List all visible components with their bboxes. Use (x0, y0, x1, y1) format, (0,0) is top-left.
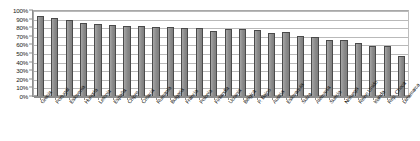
bar[interactable] (123, 26, 130, 96)
y-axis-tick-label: 50% (16, 50, 28, 57)
bar-slot (340, 10, 347, 96)
bar[interactable] (109, 25, 116, 96)
y-axis-tick-label: 80% (16, 24, 28, 31)
y-axis-tick-label: 20% (16, 75, 28, 82)
bar-slot (94, 10, 101, 96)
y-axis-tick-label: 90% (16, 15, 28, 22)
bar[interactable] (152, 27, 159, 96)
bar[interactable] (181, 28, 188, 96)
x-axis-labels: GreciaPortugalEsloveniaHungríaLetoniaEsp… (33, 97, 409, 141)
y-axis-tick-label: 100% (13, 7, 28, 14)
bar[interactable] (282, 32, 289, 96)
y-axis-tick-label: 60% (16, 41, 28, 48)
y-axis-tick-label: 0% (19, 93, 28, 100)
bar[interactable] (239, 29, 246, 96)
bar-slot (384, 10, 391, 96)
bar-slot (239, 10, 246, 96)
bar[interactable] (311, 37, 318, 96)
y-axis: 0%10%20%30%40%50%60%70%80%90%100% (0, 10, 33, 96)
bar[interactable] (94, 24, 101, 96)
bar[interactable] (268, 33, 275, 96)
bar-slot (196, 10, 203, 96)
bar-slot (268, 10, 275, 96)
bar-slot (225, 10, 232, 96)
bar-slot (326, 10, 333, 96)
bar[interactable] (51, 18, 58, 96)
bar-slot (282, 10, 289, 96)
bar[interactable] (138, 26, 145, 96)
bar[interactable] (196, 28, 203, 96)
bar-slot (109, 10, 116, 96)
bar-slot (51, 10, 58, 96)
bar-slot (167, 10, 174, 96)
bar-series (33, 10, 409, 96)
bar-slot (138, 10, 145, 96)
bar-slot (37, 10, 44, 96)
y-axis-tick-label: 70% (16, 32, 28, 39)
y-axis-tick-label: 10% (16, 84, 28, 91)
y-axis-tick-label: 40% (16, 58, 28, 65)
y-axis-tick-label: 30% (16, 67, 28, 74)
bar-slot (152, 10, 159, 96)
bar[interactable] (210, 31, 217, 96)
bar-slot (210, 10, 217, 96)
bar-slot (311, 10, 318, 96)
bar-slot (254, 10, 261, 96)
bar[interactable] (37, 16, 44, 96)
bar-slot (123, 10, 130, 96)
bar-slot (355, 10, 362, 96)
bar-slot (66, 10, 73, 96)
bar[interactable] (66, 20, 73, 96)
bar-slot (181, 10, 188, 96)
bar[interactable] (340, 40, 347, 96)
bar[interactable] (254, 30, 261, 96)
bar[interactable] (384, 46, 391, 96)
